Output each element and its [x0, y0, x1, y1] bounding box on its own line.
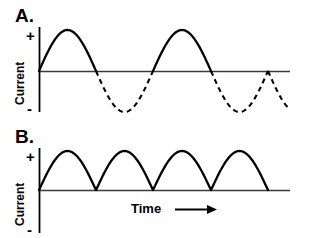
panel-a-positive-half-cycles	[39, 30, 211, 71]
panel-a-negative-half-cycles	[96, 71, 290, 112]
rectification-waveform-figure: A. Current + - B. Current + - Time	[0, 0, 309, 238]
panel-b-plot	[0, 119, 309, 238]
panel-a-alternating-current: A. Current + -	[0, 0, 309, 119]
panel-a-plot	[0, 0, 309, 119]
panel-b-rectified-current: B. Current + - Time	[0, 119, 309, 238]
panel-b-rectified-half-cycles	[39, 151, 268, 190]
time-direction-arrow	[175, 205, 217, 214]
